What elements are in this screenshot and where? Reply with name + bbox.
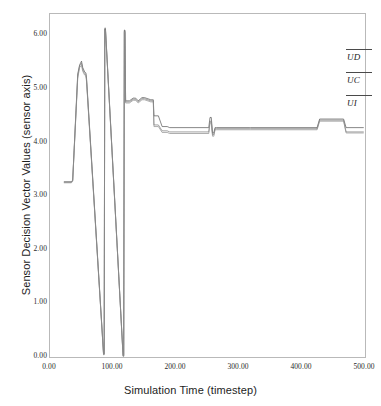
x-tick-label: 100.00 [101,362,122,371]
x-tick-label: 0.00 [42,362,56,371]
y-tick-label: 3.00 [33,190,47,199]
plot-area: UDUCUI [49,13,366,358]
x-tick-label: 200.00 [164,362,185,371]
series-line-ui [64,30,364,356]
x-tick-label: 300.00 [227,362,248,371]
legend-entry-uc[interactable]: UC [343,70,381,93]
x-tick-label: 500.00 [353,362,374,371]
x-axis-title: Simulation Time (timestep) [0,384,381,396]
legend: UDUCUI [343,47,381,116]
legend-label: UD [347,52,360,62]
y-tick-label: 1.00 [33,297,47,306]
x-tick-label: 400.00 [290,362,311,371]
legend-line-swatch [346,72,372,73]
y-tick-label: 2.00 [33,244,47,253]
y-tick-label: 6.00 [33,29,47,38]
legend-label: UC [347,75,360,85]
legend-entry-ud[interactable]: UD [343,47,381,70]
y-axis-title: Sensor Decision Vector Values (sensor ax… [20,35,32,335]
series-line-ud [64,29,364,356]
chart-figure: 0.001.002.003.004.005.006.00 0.00100.002… [0,0,381,406]
legend-label: UI [347,98,357,108]
y-tick-label: 4.00 [33,137,47,146]
chart-title-strip [0,0,381,11]
y-tick-label: 5.00 [33,83,47,92]
series-line-uc [64,28,364,355]
y-tick-label: 0.00 [33,351,47,360]
plot-lines [50,14,365,357]
legend-line-swatch [346,95,372,96]
legend-entry-ui[interactable]: UI [343,93,381,116]
legend-line-swatch [346,49,372,50]
